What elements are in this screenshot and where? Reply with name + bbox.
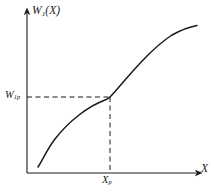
- plot-svg: [0, 0, 214, 192]
- response-curve: [38, 26, 197, 168]
- y-axis-tick-label-w1p: W1p: [5, 90, 20, 101]
- y-axis-label: W1(X): [32, 5, 60, 18]
- y-axis-label-main: W: [32, 4, 42, 16]
- x-tick-label-subscript: p: [109, 178, 112, 185]
- x-axis-label: X: [201, 163, 208, 175]
- y-tick-label-subscript: 1p: [14, 93, 21, 100]
- figure-canvas: W1(X) X W1p Xp: [0, 0, 214, 192]
- x-axis-tick-label-xp: Xp: [102, 175, 112, 186]
- y-tick-label-main: W: [5, 89, 14, 100]
- x-axis-label-main: X: [201, 162, 208, 174]
- y-axis-label-argument: (X): [45, 4, 60, 16]
